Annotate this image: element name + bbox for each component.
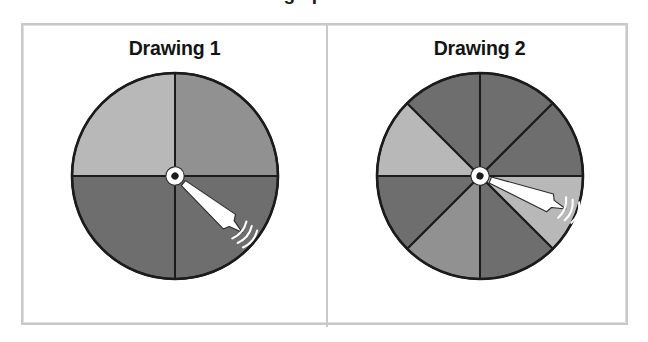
panel-title-drawing-2: Drawing 2: [339, 36, 621, 60]
spinner-sector: [72, 73, 175, 176]
figure-frame: Drawing 1 Drawing 2: [21, 23, 628, 325]
spinner-drawing-1: [68, 69, 282, 283]
panel-drawing-1: Drawing 1: [23, 25, 326, 327]
spinner-four-sectors: [68, 69, 282, 283]
spinner-sector: [175, 73, 278, 176]
panel-drawing-2: Drawing 2: [328, 25, 631, 327]
spinner-drawing-2: [373, 69, 587, 283]
figure-stage: ding spinners? Drawing 1 Drawing 2: [0, 0, 648, 342]
spinner-eight-sectors: [373, 69, 587, 283]
panel-title-drawing-1: Drawing 1: [34, 36, 316, 60]
cutoff-heading-text: ding spinners?: [0, 0, 648, 5]
cutoff-heading-strip: ding spinners?: [0, 0, 648, 6]
spinner-sector: [72, 176, 175, 279]
